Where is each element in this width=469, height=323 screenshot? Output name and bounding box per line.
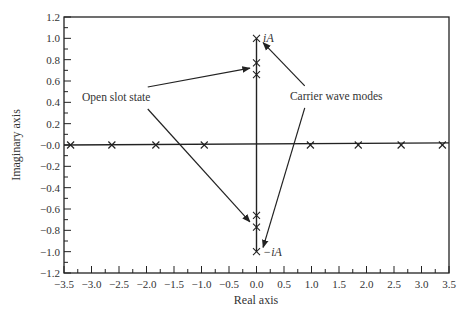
x-tick-label: −1.5 (164, 278, 184, 290)
x-axis-label: Real axis (234, 293, 279, 307)
x-tick-label: 3.0 (415, 278, 429, 290)
x-tick-label: 1.5 (332, 278, 346, 290)
mode-marker-x (307, 142, 314, 149)
y-tick-label: −0.8 (40, 224, 60, 236)
annotation-arrow (148, 109, 250, 222)
annotation-arrow (263, 108, 305, 247)
x-tick-label: −2.0 (137, 278, 157, 290)
y-tick-label: 0.2 (46, 118, 60, 130)
annotation-label: Open slot state (82, 91, 150, 104)
y-tick-label: −0.2 (40, 160, 60, 172)
x-tick-label: 0.5 (277, 278, 291, 290)
y-tick-label: −0.6 (40, 203, 60, 215)
y-tick-label: −0.4 (40, 182, 60, 194)
y-axis-label: Imaginary axis (9, 109, 23, 181)
y-tick-label: 0.6 (46, 75, 60, 87)
x-tick-label: −2.5 (109, 278, 129, 290)
y-tick-label: 1.2 (46, 11, 60, 23)
x-tick-label: −3.5 (54, 278, 74, 290)
chart: 1.21.00.80.60.40.2−0.0−0.2−0.4−0.6−0.8−1… (0, 0, 469, 323)
x-tick-label: −0.5 (219, 278, 239, 290)
annotation-arrow (148, 68, 250, 87)
x-tick-label: 2.5 (387, 278, 401, 290)
x-tick-label: 1.0 (305, 278, 319, 290)
x-tick-label: 0.0 (250, 278, 264, 290)
annotation-arrow (263, 43, 305, 86)
y-tick-label: −1.0 (40, 246, 60, 258)
x-tick-label: −1.0 (192, 278, 212, 290)
pole-label: −iA (263, 245, 282, 259)
mode-marker-x (355, 142, 362, 149)
y-tick-label: 0.4 (46, 96, 60, 108)
mode-marker-x (201, 142, 208, 149)
y-tick-label: 1.0 (46, 32, 60, 44)
x-tick-label: 3.5 (442, 278, 456, 290)
pole-label: iA (263, 31, 274, 45)
y-tick-label: 0.8 (46, 54, 60, 66)
mode-lines (64, 38, 449, 251)
y-tick-label: −0.0 (40, 139, 60, 151)
x-tick-label: −3.0 (82, 278, 102, 290)
annotation-label: Carrier wave modes (290, 90, 383, 102)
x-tick-label: 2.0 (360, 278, 374, 290)
x-axis-ticks: −3.5−3.0−2.5−2.0−1.5−1.0−0.50.00.51.01.5… (54, 266, 456, 290)
